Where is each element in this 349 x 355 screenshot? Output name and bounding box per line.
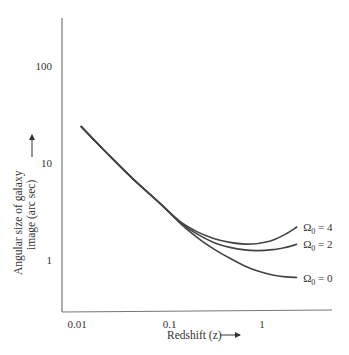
series-line-2 [81,126,297,277]
y-tick-label: 10 [41,157,53,169]
x-axis [62,310,332,312]
y-tick-label: 1 [47,254,53,266]
y-tick-label: 100 [36,60,53,72]
series-line-0 [81,126,297,244]
series-label-2: Ω0 = 0 [303,272,333,287]
series-label-1: Ω0 = 2 [303,238,332,253]
y-axis-label-line1: Angular size of galaxy [12,170,25,275]
x-axis-label: Redshift (z) [167,329,222,342]
y-axis-label-line2: image (arc sec) [25,180,38,250]
x-tick-label: 0.01 [67,318,86,330]
series-label-0: Ω0 = 4 [303,221,333,236]
x-tick-label: 1 [259,318,265,330]
angular-size-chart: 0.010.11 110100 Ω0 = 4Ω0 = 2Ω0 = 0 Redsh… [0,0,349,355]
